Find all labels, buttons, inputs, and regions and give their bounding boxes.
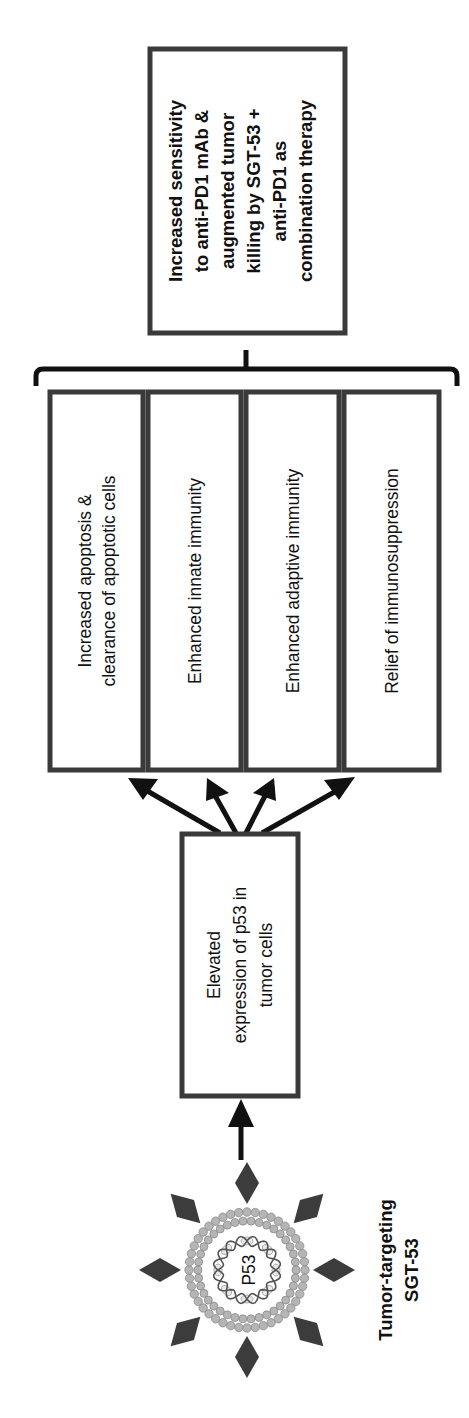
effect-node-apoptosis: Increased apoptosis & clearance of apopt… [50,392,143,770]
sgt53-nanoparticle-icon: P53 [139,1162,355,1378]
source-label-line-1: Tumor-targeting [375,1199,396,1340]
outcome-line-3: augmented tumor [217,113,238,269]
effect-4-line-1: Relief of immunosuppression [382,468,402,694]
step1-line-3: tumor cells [256,922,276,1007]
effect-node-adaptive-immunity: Enhanced adaptive immunity [246,392,339,770]
effect-3-line-1: Enhanced adaptive immunity [283,468,303,693]
outcome-node: Increased sensitivity to anti-PD1 mAb & … [150,49,345,333]
step1-line-1: Elevated [204,931,224,999]
particle-label: P53 [239,1254,259,1285]
outcome-line-6: combination therapy [295,99,316,282]
arrow-to-effect-1 [128,778,220,833]
effect-2-line-1: Enhanced innate immunity [185,478,205,684]
arrow-to-effect-4 [262,777,355,833]
effect-1-line-2: clearance of apoptotic cells [99,475,119,686]
grouping-brace [36,350,457,386]
effect-node-innate-immunity: Enhanced innate immunity [148,392,241,770]
effect-1-line-1: Increased apoptosis & [75,494,95,667]
arrow-to-p53-expression [228,1099,254,1160]
outcome-line-1: Increased sensitivity [165,99,186,282]
p53-expression-node: Elevated expression of p53 in tumor cell… [182,834,298,1096]
outcome-line-5: anti-PD1 as [269,141,290,242]
outcome-line-4: killing by SGT-53 + [243,108,264,273]
fan-out-arrows [128,777,355,833]
source-label: Tumor-targeting SGT-53 [375,1199,422,1340]
step1-line-2: expression of p53 in [230,887,250,1044]
effect-node-immunosuppression-relief: Relief of immunosuppression [344,392,439,770]
outcome-line-2: to anti-PD1 mAb & [191,110,212,272]
source-label-line-2: SGT-53 [401,1238,422,1302]
effect-box-1 [50,392,143,770]
